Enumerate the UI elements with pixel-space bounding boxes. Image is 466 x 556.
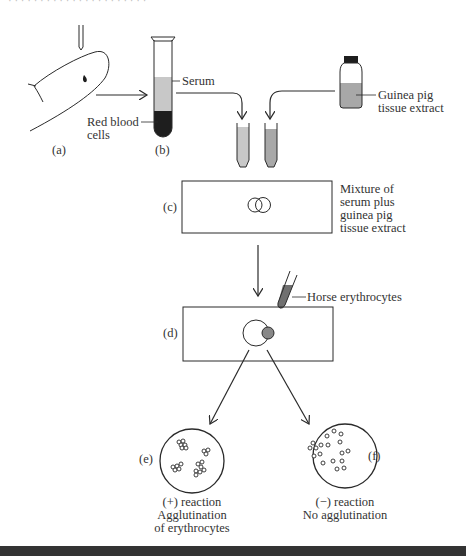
negative-reaction-dish	[308, 424, 377, 488]
mixture-desc-line4: tissue extract	[340, 221, 406, 235]
mixture-desc-line3: guinea pig	[340, 208, 392, 222]
arrow-extract-to-tube	[270, 91, 335, 119]
guinea-pig-label-line2: tissue extract	[378, 101, 444, 115]
drop-erythrocytes-icon	[262, 327, 274, 339]
positive-caption-line2: Agglutination	[142, 508, 242, 522]
panel-b-label: (b)	[155, 143, 170, 157]
red-blood-cells-label-line1: Red blood	[87, 115, 139, 129]
negative-caption-line1: (−) reaction	[290, 495, 400, 509]
panel-a-label: (a)	[52, 143, 66, 157]
negative-caption-line2: No agglutination	[290, 508, 400, 522]
slide-c	[182, 181, 332, 233]
page-header-fragment: · · · · · · · · · · · · · · · · · · · · …	[8, 0, 146, 6]
red-blood-cells-label-line2: cells	[87, 128, 110, 142]
extract-tube	[265, 123, 277, 167]
panel-e-label: (e)	[139, 452, 153, 466]
arrow-serum-to-tube	[176, 93, 242, 119]
lancet-icon	[79, 25, 83, 50]
page-bottom-rule	[0, 546, 466, 556]
mixture-desc-line2: serum plus	[340, 195, 395, 209]
positive-caption-line1: (+) reaction	[142, 495, 242, 509]
horse-erythrocytes-label: Horse erythrocytes	[307, 290, 402, 304]
agglutination-diagram	[0, 0, 466, 556]
serum-label: Serum	[182, 74, 215, 88]
positive-caption-line3: of erythrocytes	[142, 521, 242, 535]
positive-reaction-dish	[160, 429, 224, 493]
mixture-desc-line1: Mixture of	[340, 182, 394, 196]
panel-d-label: (d)	[163, 326, 178, 340]
extract-bottle	[340, 56, 376, 108]
bottle-cap-icon	[344, 56, 358, 63]
slide-d	[183, 307, 333, 361]
serum-tube	[237, 123, 249, 167]
panel-c-label: (c)	[163, 200, 177, 214]
blood-drop-icon	[83, 75, 87, 82]
drop-extract-icon	[256, 198, 271, 213]
panel-f-label: (f)	[368, 449, 381, 463]
guinea-pig-label-line1: Guinea pig	[378, 88, 433, 102]
centrifuge-tube	[141, 37, 180, 137]
pipette	[278, 271, 306, 308]
